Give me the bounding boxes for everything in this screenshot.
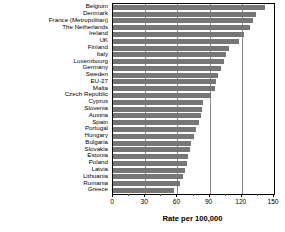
bar xyxy=(113,127,196,132)
plot-area xyxy=(112,3,275,195)
bar xyxy=(113,86,215,91)
category-axis-labels: BelgiumDenmarkFrance (Metropolitan)The N… xyxy=(0,3,110,193)
bar-row xyxy=(113,106,274,113)
bar xyxy=(113,73,218,78)
bar-row xyxy=(113,146,274,153)
bar xyxy=(113,113,201,118)
bar xyxy=(113,134,194,139)
category-label: Greece xyxy=(0,186,110,193)
x-minor-tick-mark xyxy=(160,194,161,196)
bar-row xyxy=(113,174,274,181)
x-tick-mark xyxy=(176,194,177,197)
bar-row xyxy=(113,113,274,120)
bar xyxy=(113,66,221,71)
bar-row xyxy=(113,133,274,140)
x-tick-mark xyxy=(209,194,210,197)
bar xyxy=(113,79,216,84)
bar-row xyxy=(113,85,274,92)
x-tick-mark xyxy=(241,194,242,197)
bar xyxy=(113,93,211,98)
bar-row xyxy=(113,126,274,133)
x-tick-label: 90 xyxy=(205,198,212,205)
x-tick-label: 0 xyxy=(110,198,114,205)
bar-row xyxy=(113,58,274,65)
bar xyxy=(113,181,180,186)
bar-row xyxy=(113,11,274,18)
bar-row xyxy=(113,160,274,167)
category-label: Finland xyxy=(0,44,110,51)
bar-row xyxy=(113,18,274,25)
bar xyxy=(113,100,203,105)
bar-row xyxy=(113,119,274,126)
bar xyxy=(113,147,190,152)
bar-chart: BelgiumDenmarkFrance (Metropolitan)The N… xyxy=(0,0,285,232)
x-axis-title: Rate per 100,000 xyxy=(112,214,273,223)
bar-row xyxy=(113,153,274,160)
bar xyxy=(113,46,229,51)
bar xyxy=(113,154,188,159)
bar xyxy=(113,120,199,125)
bar-row xyxy=(113,31,274,38)
bar xyxy=(113,39,239,44)
x-tick-label: 30 xyxy=(141,198,148,205)
bar-row xyxy=(113,180,274,187)
bar-row xyxy=(113,45,274,52)
bar xyxy=(113,188,174,193)
bar-row xyxy=(113,38,274,45)
bar xyxy=(113,32,244,37)
bar xyxy=(113,174,183,179)
x-minor-tick-mark xyxy=(193,194,194,196)
bar-series xyxy=(113,4,274,194)
bar-row xyxy=(113,51,274,58)
bar-row xyxy=(113,187,274,194)
x-tick-label: 150 xyxy=(267,198,278,205)
x-minor-tick-mark xyxy=(225,194,226,196)
bar xyxy=(113,161,187,166)
bar xyxy=(113,59,224,64)
bar xyxy=(113,5,265,10)
bar xyxy=(113,12,256,17)
bar-row xyxy=(113,24,274,31)
bar-row xyxy=(113,72,274,79)
bar-row xyxy=(113,140,274,147)
bar xyxy=(113,18,253,23)
bar-row xyxy=(113,4,274,11)
bar-row xyxy=(113,167,274,174)
bar-row xyxy=(113,65,274,72)
x-tick-label: 60 xyxy=(173,198,180,205)
x-tick-mark xyxy=(112,194,113,197)
x-tick-mark xyxy=(144,194,145,197)
x-tick-mark xyxy=(273,194,274,197)
bar xyxy=(113,141,191,146)
x-minor-tick-mark xyxy=(128,194,129,196)
bar xyxy=(113,52,226,57)
x-axis: 0306090120150 xyxy=(112,194,273,210)
x-tick-label: 120 xyxy=(235,198,246,205)
bar-row xyxy=(113,79,274,86)
category-label: Ireland xyxy=(0,30,110,37)
bar xyxy=(113,25,250,30)
bar-row xyxy=(113,99,274,106)
bar xyxy=(113,168,185,173)
bar-row xyxy=(113,92,274,99)
x-minor-tick-mark xyxy=(257,194,258,196)
bar xyxy=(113,107,202,112)
